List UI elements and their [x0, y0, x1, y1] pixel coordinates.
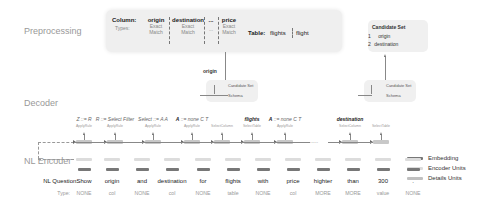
decoder-sequence-line [74, 142, 310, 143]
encoder-unit [315, 158, 331, 161]
encoder-unit [285, 158, 301, 161]
decoder-action-text: Z ::= R [76, 116, 91, 122]
decoder-action: A ::= none C T [265, 116, 305, 122]
decoder-action-text: ::= none C T [274, 116, 302, 122]
decoder-ellipsis: ...... [310, 138, 318, 144]
connector-line [285, 135, 286, 140]
embedding-unit [317, 168, 330, 171]
decoder-rule: ApplyRule [133, 124, 173, 128]
decoder-unit [373, 140, 389, 144]
decoder-action-bold: A [269, 116, 273, 122]
legend-label: Encoder Units [428, 165, 466, 171]
encoder-unit [76, 158, 92, 161]
decoder-rule: ApplyRule [95, 124, 135, 128]
connector-line [115, 135, 116, 140]
encoder-unit [104, 158, 120, 161]
connector-line [252, 135, 253, 140]
decoder-action: destination [330, 116, 370, 122]
embedding-unit [78, 168, 91, 171]
encoder-unit [225, 158, 241, 161]
decoder-rule: ApplyRule [265, 124, 305, 128]
decoder-action-bold: destination [337, 116, 364, 122]
decoder-action-text: ::= none C T [181, 116, 209, 122]
nl-token-type: NONE [393, 190, 433, 196]
connector-line [381, 135, 382, 140]
decoder-sequence-line [328, 142, 373, 143]
encoder-unit [195, 158, 211, 161]
embedding-unit [106, 168, 119, 171]
decoder-lead-line [38, 142, 74, 143]
encoder-unit [164, 158, 180, 161]
decoder-action-bold: flights [245, 116, 260, 122]
embedding-unit [377, 168, 390, 171]
type-label: Type: [22, 190, 70, 196]
embedding-unit [197, 168, 210, 171]
embedding-unit [287, 168, 300, 171]
encoder-unit [255, 158, 271, 161]
decoder-action: Select ::= A A [133, 116, 173, 122]
encoder-lead-line [38, 159, 74, 160]
connector-line [222, 135, 223, 140]
encoder-unit [134, 158, 150, 161]
decoder-action-text: R ::= Select Filter [96, 116, 134, 122]
encoder-unit [405, 158, 421, 161]
legend-label: Details Units [428, 175, 462, 181]
embedding-unit [347, 168, 360, 171]
decoder-action-bold: A [176, 116, 180, 122]
embedding-unit [227, 168, 240, 171]
connector-line [192, 135, 193, 140]
embedding-unit [257, 168, 270, 171]
embedding-unit [166, 168, 179, 171]
connector-line [153, 135, 154, 140]
legend-label: Embedding [428, 155, 458, 161]
connector-line [350, 135, 351, 140]
encoder-unit [345, 158, 361, 161]
embedding-unit [136, 168, 149, 171]
decoder-action-text: Select ::= A A [138, 116, 168, 122]
decoder-lead-line [38, 142, 39, 159]
decoder-action: R ::= Select Filter [95, 116, 135, 122]
decoder-rule: SelectTable [361, 124, 401, 128]
connector-line [84, 135, 85, 140]
decoder-action: A ::= none C T [172, 116, 212, 122]
embedding-unit [407, 168, 420, 171]
nl-token: . [393, 178, 433, 184]
encoder-unit [375, 158, 391, 161]
